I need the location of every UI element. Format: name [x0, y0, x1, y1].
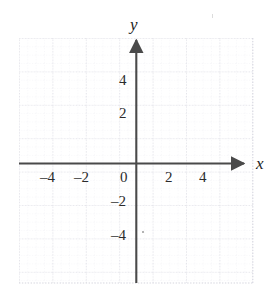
origin-label: 0: [120, 170, 128, 185]
x-tick-label-pos4: 4: [199, 170, 207, 185]
artifact-speck-lower: [142, 231, 144, 233]
y-tick-label-pos2: 2: [119, 106, 127, 121]
coordinate-plane-svg: [0, 0, 275, 290]
x-tick-label-neg2: –2: [74, 170, 89, 185]
y-tick-label-pos4: 4: [119, 73, 127, 88]
x-tick-label-pos2: 2: [165, 170, 173, 185]
coordinate-grid-figure: y x –4 –2 0 2 4 4 2 –2 –4: [0, 0, 275, 290]
artifact-speck-upper: [212, 14, 213, 18]
x-tick-label-neg4: –4: [40, 170, 55, 185]
x-axis-label: x: [256, 155, 264, 172]
y-tick-label-neg4: –4: [111, 228, 126, 243]
y-axis-label: y: [130, 16, 138, 33]
y-tick-label-neg2: –2: [111, 194, 126, 209]
